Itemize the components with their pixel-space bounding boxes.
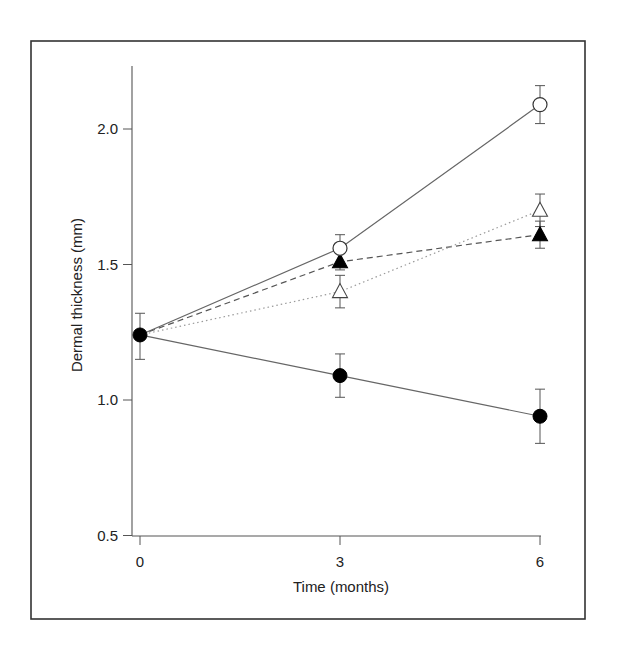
y-tick-label: 0.5 <box>97 527 118 544</box>
series-layer <box>133 86 548 444</box>
filled-triangle-marker <box>333 254 348 268</box>
open-triangle-marker <box>533 202 548 216</box>
x-ticks: 036 <box>136 536 544 570</box>
y-tick-label: 1.0 <box>97 391 118 408</box>
filled-circle-marker <box>333 369 347 383</box>
open-triangle-marker <box>333 284 348 298</box>
x-tick-label: 0 <box>136 553 144 570</box>
y-axis-label: Dermal thickness (mm) <box>68 218 85 372</box>
y-tick-label: 2.0 <box>97 120 118 137</box>
x-axis-label: Time (months) <box>293 578 389 595</box>
x-tick-label: 3 <box>336 553 344 570</box>
filled-circle-marker <box>133 328 147 342</box>
open-circle-marker <box>533 98 547 112</box>
axes <box>132 66 541 536</box>
y-ticks: 0.51.01.52.0 <box>97 120 132 544</box>
y-tick-label: 1.5 <box>97 256 118 273</box>
dermal-thickness-chart: 0.51.01.52.0 036 Time (months) Dermal th… <box>0 0 619 647</box>
filled-circle-marker <box>533 409 547 423</box>
x-tick-label: 6 <box>536 553 544 570</box>
filled-triangle-marker <box>533 227 548 241</box>
open-circle-marker <box>333 241 347 255</box>
series-line <box>140 210 540 335</box>
